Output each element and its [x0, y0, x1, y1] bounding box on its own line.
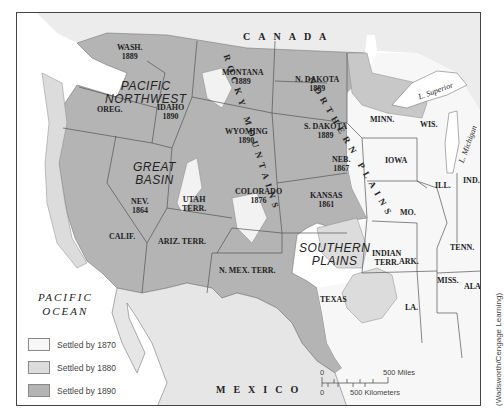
ocean-line-2: OCEAN: [38, 304, 93, 318]
state-ill: ILL.: [435, 181, 451, 190]
state-nev: NEV.1864: [131, 197, 149, 215]
state-kansas: KANSAS1861: [310, 191, 342, 209]
state-mo: MO.: [400, 208, 416, 217]
state-wis: WIS.: [420, 120, 438, 129]
state-idaho: IDAHO1890: [157, 103, 184, 121]
legend: Settled by 1870 Settled by 1880 Settled …: [28, 333, 116, 402]
legend-swatch-1870: [28, 338, 50, 351]
state-n-dakota: N. DAKOTA1889: [295, 75, 339, 93]
scale-km-label: 500 Kilometers: [350, 388, 400, 397]
state-oreg: OREG.: [97, 105, 123, 114]
state-utah: UTAHTERR.: [182, 195, 206, 213]
state-texas: TEXAS: [320, 295, 347, 304]
mexico-label: MEXICO: [216, 384, 306, 395]
state-la: LA.: [405, 303, 418, 312]
legend-swatch-1880: [28, 361, 50, 374]
legend-item-1880: Settled by 1880: [28, 356, 116, 379]
state-ala: ALA.: [464, 282, 481, 291]
region-great-basin: GREATBASIN: [133, 161, 176, 187]
state-minn: MINN.: [370, 115, 394, 124]
state-colorado: COLORADO1876: [235, 187, 282, 205]
ocean-line-1: PACIFIC: [38, 290, 93, 304]
scale-miles-label: 500 Miles: [383, 368, 415, 377]
legend-label-1870: Settled by 1870: [57, 340, 116, 350]
scale-miles-zero: 0: [320, 368, 324, 377]
legend-label-1890: Settled by 1890: [57, 386, 116, 396]
state-n-mex-terr: N. MEX. TERR.: [219, 266, 276, 275]
state-ark: ARK.: [399, 257, 419, 266]
state-miss: MISS.: [437, 276, 459, 285]
region-southern-plains: SOUTHERNPLAINS: [299, 242, 370, 268]
pacific-ocean-label: PACIFIC OCEAN: [38, 290, 93, 318]
credit-text: (Wadsworth/Cengage Learning): [494, 293, 503, 406]
legend-label-1880: Settled by 1880: [57, 363, 116, 373]
legend-swatch-1890: [28, 384, 50, 397]
legend-item-1870: Settled by 1870: [28, 333, 116, 356]
state-montana: MONTANA1889: [222, 68, 264, 86]
state-wyoming: WYOMING1890: [225, 127, 268, 145]
state-calif: CALIF.: [109, 232, 135, 241]
canada-label: CANADA: [243, 31, 334, 42]
state-ind: IND.: [463, 176, 480, 185]
state-neb: NEB.1867: [332, 155, 350, 173]
scale-bar: 0 500 Miles 0 500 Kilometers: [320, 365, 480, 405]
state-tenn: TENN.: [450, 243, 474, 252]
state-s-dakota: S. DAKOTA1889: [304, 122, 347, 140]
legend-item-1890: Settled by 1890: [28, 379, 116, 402]
scale-km-zero: 0: [320, 388, 324, 397]
state-iowa: IOWA: [385, 156, 407, 165]
state-wash: WASH.1889: [117, 43, 143, 61]
state-indian-terr: INDIANTERR.: [372, 249, 401, 267]
state-ariz-terr: ARIZ. TERR.: [158, 237, 206, 246]
